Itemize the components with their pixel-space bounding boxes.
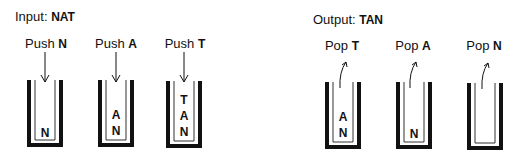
stacks-diagram — [0, 0, 514, 159]
stack-item: N — [98, 124, 134, 138]
pop-stack-3 — [469, 83, 501, 148]
pop-arrow-icon — [340, 62, 489, 89]
stack-item: N — [396, 127, 432, 141]
stack-item: A — [166, 109, 202, 123]
stack-item: N — [27, 126, 63, 140]
stack-item: T — [166, 93, 202, 107]
stack-item: N — [166, 125, 202, 139]
stack-item: A — [98, 108, 134, 122]
stack-item: N — [325, 126, 361, 140]
push-arrow-icon — [41, 52, 188, 82]
stack-item: A — [325, 110, 361, 124]
